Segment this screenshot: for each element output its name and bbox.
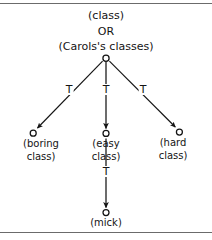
top-divider (0, 3, 212, 4)
root-title-line-1: (class) (59, 8, 154, 24)
node-label-easy: (easy class) (92, 138, 121, 163)
node-root (103, 55, 109, 61)
node-label-hard-line-1: (hard (159, 137, 188, 150)
node-hard (176, 129, 182, 135)
node-label-boring-line-1: (boring (23, 138, 59, 151)
node-label-mick: (mick) (90, 217, 122, 230)
node-label-easy-line-1: (easy (92, 138, 121, 151)
node-label-mick-line-1: (mick) (90, 217, 122, 230)
node-mick (103, 210, 109, 216)
root-title: (class) OR (Carols's classes) (59, 8, 154, 55)
bottom-divider (0, 232, 212, 233)
root-title-line-2: OR (59, 24, 154, 40)
edge-label-easy-mick: T (102, 166, 111, 177)
node-label-boring-line-2: class) (23, 151, 59, 164)
node-easy (103, 130, 109, 136)
node-boring (30, 130, 36, 136)
edge-label-root-boring: T (65, 84, 74, 95)
edge-label-root-easy: T (102, 84, 111, 95)
root-title-line-3: (Carols's classes) (59, 39, 154, 55)
node-label-hard: (hard class) (159, 137, 188, 162)
edge-label-root-hard: T (139, 84, 148, 95)
node-label-easy-line-2: class) (92, 151, 121, 164)
node-label-boring: (boring class) (23, 138, 59, 163)
node-label-hard-line-2: class) (159, 150, 188, 163)
graph-figure: (class) OR (Carols's classes) T T T T (b… (0, 0, 212, 240)
